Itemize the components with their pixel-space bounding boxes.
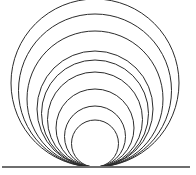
figure-canvas [0, 0, 196, 175]
tangent-circles-diagram [0, 0, 196, 175]
figure-background [0, 0, 196, 175]
